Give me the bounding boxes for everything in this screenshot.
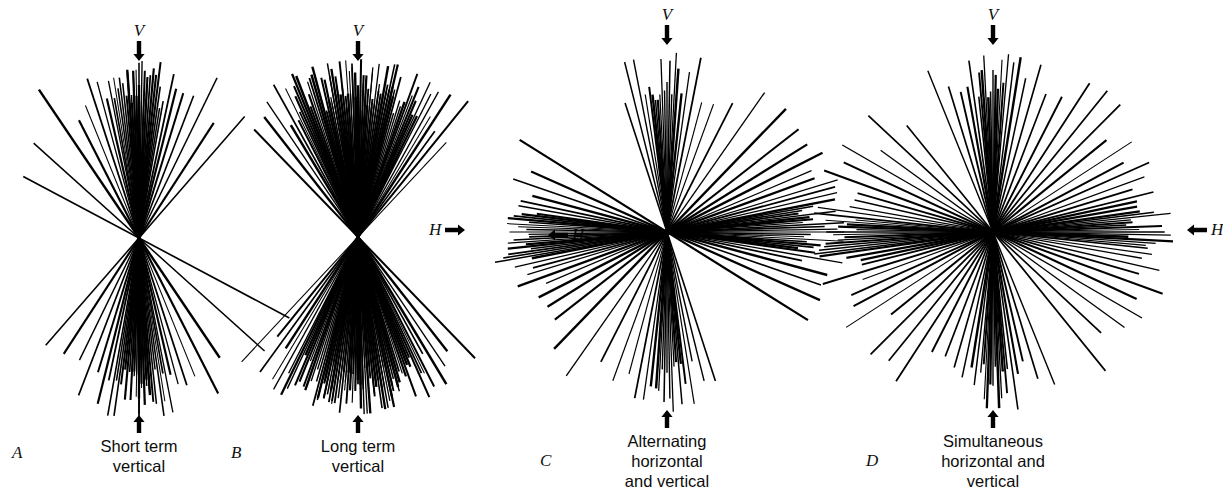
caption-text: Simultaneous horizontal and vertical [941,432,1045,489]
v-label: V [973,6,1013,23]
panel-letter-d: D [866,451,878,471]
v-marker-d: V [973,6,1013,45]
h-label: H [1211,221,1223,238]
down-arrow-icon [985,25,1001,45]
caption-d: Simultaneous horizontal and vertical [898,410,1088,489]
left-arrow-icon [1187,222,1207,238]
orientation-line [907,125,1106,370]
h-marker-d: H [1187,221,1223,238]
up-arrow-icon [985,410,1001,428]
